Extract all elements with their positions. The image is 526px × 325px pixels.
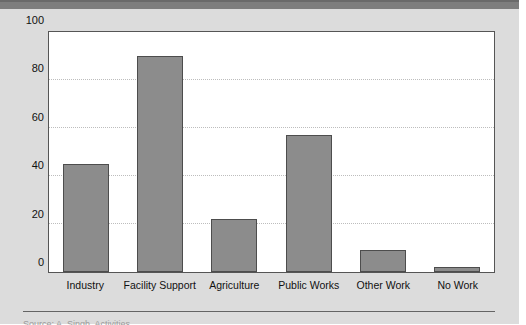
y-axis-tick-label: 0 bbox=[0, 257, 44, 268]
scan-top-band-edge bbox=[0, 0, 519, 2]
source-caption: Source: A. Singh, Activities bbox=[23, 317, 495, 325]
bar-slot bbox=[197, 32, 271, 272]
y-axis-tick-label: 80 bbox=[0, 63, 44, 74]
bar-chart-figure: 020406080100 IndustryFacility SupportAgr… bbox=[0, 9, 519, 324]
y-axis-tick-label: 100 bbox=[0, 15, 44, 26]
plot-frame bbox=[48, 31, 495, 273]
footer-divider bbox=[23, 311, 495, 312]
x-axis-tick-label: Industry bbox=[48, 279, 123, 291]
bar-slot bbox=[49, 32, 123, 272]
bar[interactable] bbox=[211, 219, 257, 272]
x-axis-tick-label: Facility Support bbox=[123, 279, 198, 291]
bar[interactable] bbox=[434, 267, 480, 272]
bar[interactable] bbox=[286, 135, 332, 272]
y-axis-tick-labels: 020406080100 bbox=[0, 31, 44, 273]
bar-series bbox=[49, 32, 494, 272]
bar-slot bbox=[123, 32, 197, 272]
plot-area bbox=[49, 32, 494, 272]
x-axis-tick-label: Public Works bbox=[272, 279, 347, 291]
scan-top-band bbox=[0, 0, 519, 9]
x-axis-tick-label: Other Work bbox=[346, 279, 421, 291]
y-axis-tick-label: 60 bbox=[0, 112, 44, 123]
bar-slot bbox=[346, 32, 420, 272]
y-axis-tick-label: 40 bbox=[0, 160, 44, 171]
x-axis-tick-label: Agriculture bbox=[197, 279, 272, 291]
bar-slot bbox=[420, 32, 494, 272]
bar[interactable] bbox=[137, 56, 183, 272]
bar-slot bbox=[272, 32, 346, 272]
page-right-margin bbox=[519, 0, 526, 324]
x-axis-category-labels: IndustryFacility SupportAgriculturePubli… bbox=[48, 279, 495, 291]
y-axis-tick-label: 20 bbox=[0, 209, 44, 220]
bar[interactable] bbox=[360, 250, 406, 272]
x-axis-tick-label: No Work bbox=[421, 279, 496, 291]
bar[interactable] bbox=[63, 164, 109, 272]
